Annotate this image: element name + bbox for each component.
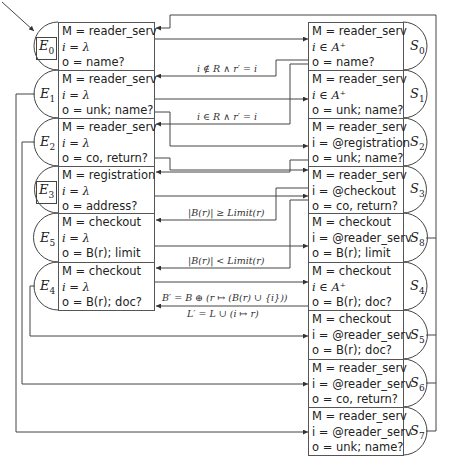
state-m: M = reader_serv [62,120,157,136]
state-m: M = reader_serv [62,72,157,88]
state-i: i = @reader_serv [312,425,412,441]
state-i: i ∈ A⁺ [312,88,407,104]
env-label-E2: E2 [40,134,55,152]
state-m: M = reader_serv [312,120,410,136]
edge-label-s1-e2: i ∈ R ∧ r′ = i [197,111,257,122]
sys-label-S8: S8 [410,230,425,248]
env-state-E1: M = reader_serv i = λ o = unk; name? [58,70,155,119]
label-sub: 6 [419,383,425,393]
sys-state-S3: M = reader_serv i = @checkout o = co, re… [308,166,404,214]
sys-state-S6: M = reader_serv i = @reader_serv o = co,… [308,359,404,408]
state-m: M = checkout [312,312,412,328]
env-label-E1: E1 [40,86,55,104]
label-sub: 7 [419,431,425,441]
sys-label-S1: S1 [410,86,425,104]
state-o: o = unk; name? [312,440,412,456]
env-label-E3: E3 [36,181,57,204]
state-o: o = B(r); limit [312,246,412,262]
state-i: i = λ [62,184,155,200]
sys-state-S4: M = checkout i ∈ A⁺ o = B(r); doc? [308,262,404,311]
sys-label-S4: S4 [410,278,425,296]
state-o: o = B(r); limit [62,246,141,262]
edge-label-s0-e1: i ∉ R ∧ r′ = i [197,63,257,74]
state-i: i = @checkout [312,184,407,200]
label-letter: S [410,375,419,390]
label-letter: S [410,278,419,293]
env-state-E0: M = reader_serv i = λ o = name? [58,22,155,71]
env-state-E4: M = checkout i = λ o = B(r); doc? [58,262,155,311]
sys-label-S3: S3 [410,181,425,199]
state-o: o = co, return? [62,151,157,167]
sys-label-S0: S0 [410,38,425,56]
label-sub: 0 [419,46,425,56]
label-sub: 8 [419,238,425,248]
label-sub: 3 [419,189,425,199]
edge-label-s3-e5: |B(r)| ≥ Limit(r) [188,207,265,218]
sys-label-S6: S6 [410,375,425,393]
sys-state-S8: M = checkout i = @reader_serv o = B(r); … [308,213,404,263]
state-o: o = B(r); doc? [312,343,412,359]
label-letter: S [410,423,419,438]
label-sub: 4 [50,286,56,296]
sys-state-S2: M = reader_serv i = @registration o = un… [308,118,404,167]
env-state-E3: M = registration i = λ o = address? [58,166,155,214]
label-sub: 4 [419,286,425,296]
state-i: i ∈ A⁺ [312,280,392,296]
sys-label-S2: S2 [410,134,425,152]
state-i: i = @reader_serv [312,328,412,344]
state-m: M = checkout [62,215,141,231]
label-letter: S [410,327,419,342]
state-i: i = λ [62,280,142,296]
state-i: i = λ [62,231,141,247]
env-label-E5: E5 [40,230,55,248]
label-letter: E [40,278,50,293]
state-i: i = @reader_serv [312,377,412,393]
label-letter: E [39,38,49,53]
state-m: M = reader_serv [312,72,407,88]
state-m: M = reader_serv [312,409,412,425]
label-letter: S [410,181,419,196]
state-o: o = B(r); doc? [62,295,142,311]
label-sub: 5 [50,238,56,248]
state-m: M = reader_serv [62,24,157,40]
edge-label-s4-update-b: B′ = B ⊕ (r ↦ (B(r) ∪ {i})) [162,292,288,303]
sys-label-S5: S5 [410,327,425,345]
label-sub: 3 [49,190,55,200]
sys-state-S1: M = reader_serv i ∈ A⁺ o = unk; name? [308,70,404,119]
state-m: M = registration [62,168,155,184]
env-label-E4: E4 [40,278,55,296]
state-m: M = checkout [312,215,412,231]
label-sub: 1 [419,94,425,104]
label-letter: S [410,38,419,53]
state-o: o = name? [62,55,157,71]
state-i: i = λ [62,88,157,104]
label-sub: 1 [50,94,56,104]
state-m: M = checkout [312,264,392,280]
label-letter: E [40,86,50,101]
edge-label-s4-update-l: L′ = L ∪ (i ↦ r) [187,308,259,319]
label-letter: S [410,230,419,245]
state-m: M = checkout [62,264,142,280]
state-o: o = co, return? [312,392,412,408]
state-o: o = unk; name? [312,151,410,167]
label-sub: 5 [419,335,425,345]
state-i: i = λ [62,40,157,56]
label-sub: 2 [419,142,425,152]
sys-state-S5: M = checkout i = @reader_serv o = B(r); … [308,310,404,360]
label-sub: 2 [50,142,56,152]
env-label-E0: E0 [36,37,57,60]
state-o: o = B(r); doc? [312,295,392,311]
state-m: M = reader_serv [312,168,407,184]
label-letter: S [410,86,419,101]
state-o: o = unk; name? [312,103,407,119]
state-i: i = λ [62,136,157,152]
label-letter: E [39,182,49,197]
label-letter: E [40,230,50,245]
state-i: i = @registration [312,136,410,152]
state-o: o = name? [312,55,407,71]
label-sub: 0 [49,46,55,56]
label-letter: E [40,134,50,149]
state-m: M = reader_serv [312,361,412,377]
env-state-E5: M = checkout i = λ o = B(r); limit [58,213,155,263]
sys-label-S7: S7 [410,423,425,441]
